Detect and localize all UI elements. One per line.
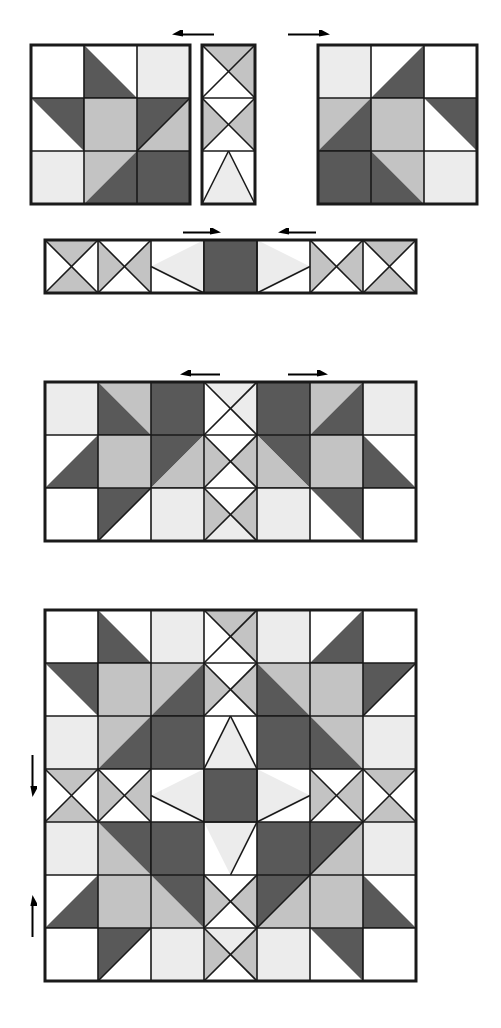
arrow-join-row2-left bbox=[183, 228, 221, 237]
patch-r4-c2 bbox=[151, 822, 204, 875]
patch-r5-c6 bbox=[363, 875, 416, 928]
patch-r2-c4 bbox=[257, 716, 310, 769]
patch-r1-c2 bbox=[424, 98, 477, 151]
patch-r1-c0 bbox=[318, 98, 371, 151]
patch-r1-c3 bbox=[204, 663, 257, 716]
patch-r2-c5 bbox=[310, 716, 363, 769]
patch-r2-c2 bbox=[137, 151, 190, 204]
arrow-join-row2-right bbox=[278, 228, 316, 237]
patch-r1-c5 bbox=[310, 435, 363, 488]
strip-top-row bbox=[42, 379, 419, 544]
patch-r0-c1 bbox=[371, 45, 424, 98]
arrow-join-quilt-down bbox=[28, 755, 37, 797]
patch-r0-c3 bbox=[204, 382, 257, 435]
patch-r1-c4 bbox=[257, 663, 310, 716]
patch-r2-c0 bbox=[31, 151, 84, 204]
patch-r3-c0 bbox=[45, 769, 98, 822]
patch-r5-c4 bbox=[257, 875, 310, 928]
patch-r2-c1 bbox=[84, 151, 137, 204]
patch-r2-c2 bbox=[424, 151, 477, 204]
patch-r1-c1 bbox=[98, 663, 151, 716]
patch-r6-c5 bbox=[310, 928, 363, 981]
patch-r0-c2 bbox=[151, 610, 204, 663]
patch-r4-c5 bbox=[310, 822, 363, 875]
patch-r1-c1 bbox=[98, 435, 151, 488]
patch-r2-c0 bbox=[45, 488, 98, 541]
patch-r0-c4 bbox=[257, 382, 310, 435]
patch-r0-c3 bbox=[204, 610, 257, 663]
patch-r2-c1 bbox=[98, 488, 151, 541]
patch-r6-c3 bbox=[204, 928, 257, 981]
patch-r3-c1 bbox=[98, 769, 151, 822]
patch-r2-c2 bbox=[151, 716, 204, 769]
patch-r2-c1 bbox=[98, 716, 151, 769]
patch-r1-c2 bbox=[137, 98, 190, 151]
quilt-full bbox=[42, 607, 419, 984]
patch-r6-c1 bbox=[98, 928, 151, 981]
patch-r1-c0 bbox=[45, 663, 98, 716]
patch-r0-c6 bbox=[363, 382, 416, 435]
arrow-join-row1-left bbox=[172, 30, 214, 39]
patch-r0-c1 bbox=[98, 240, 151, 293]
patch-r0-c5 bbox=[310, 240, 363, 293]
patch-r5-c3 bbox=[204, 875, 257, 928]
patch-r5-c5 bbox=[310, 875, 363, 928]
patch-r2-c0 bbox=[318, 151, 371, 204]
patch-r0-c0 bbox=[31, 45, 84, 98]
patch-r5-c2 bbox=[151, 875, 204, 928]
patch-r2-c3 bbox=[204, 716, 257, 769]
patch-r2-c6 bbox=[363, 716, 416, 769]
patch-r0-c6 bbox=[363, 610, 416, 663]
patch-r2-c4 bbox=[257, 488, 310, 541]
patch-r6-c0 bbox=[45, 928, 98, 981]
arrow-join-row3-left bbox=[180, 370, 220, 379]
patch-r1-c2 bbox=[151, 435, 204, 488]
patch-r4-c0 bbox=[45, 822, 98, 875]
patch-r4-c6 bbox=[363, 822, 416, 875]
patch-r1-c6 bbox=[363, 435, 416, 488]
patch-r0-c5 bbox=[310, 382, 363, 435]
arrow-join-quilt-up bbox=[28, 895, 37, 937]
patch-r1-c0 bbox=[45, 435, 98, 488]
patch-r4-c1 bbox=[98, 822, 151, 875]
block-right bbox=[315, 42, 480, 207]
patch-r6-c2 bbox=[151, 928, 204, 981]
patch-r0-c0 bbox=[45, 610, 98, 663]
patch-r0-c1 bbox=[84, 45, 137, 98]
patch-r5-c1 bbox=[98, 875, 151, 928]
patch-r1-c0 bbox=[31, 98, 84, 151]
patch-r0-c3 bbox=[204, 240, 257, 293]
patch-r0-c5 bbox=[310, 610, 363, 663]
patch-r3-c2 bbox=[151, 769, 204, 822]
patch-r0-c0 bbox=[45, 240, 98, 293]
patch-r2-c0 bbox=[202, 151, 255, 204]
patch-r1-c4 bbox=[257, 435, 310, 488]
patch-r2-c1 bbox=[371, 151, 424, 204]
patch-r2-c0 bbox=[45, 716, 98, 769]
patch-r0-c0 bbox=[45, 382, 98, 435]
patch-r6-c6 bbox=[363, 928, 416, 981]
patch-r5-c0 bbox=[45, 875, 98, 928]
diagram-canvas bbox=[0, 0, 501, 1028]
patch-r1-c2 bbox=[151, 663, 204, 716]
patch-r2-c5 bbox=[310, 488, 363, 541]
patch-r0-c0 bbox=[202, 45, 255, 98]
patch-r4-c3 bbox=[204, 822, 257, 875]
patch-r4-c4 bbox=[257, 822, 310, 875]
patch-r3-c6 bbox=[363, 769, 416, 822]
patch-r2-c6 bbox=[363, 488, 416, 541]
block-left bbox=[28, 42, 193, 207]
patch-r1-c6 bbox=[363, 663, 416, 716]
patch-r0-c2 bbox=[424, 45, 477, 98]
patch-r3-c3 bbox=[204, 769, 257, 822]
patch-r1-c3 bbox=[204, 435, 257, 488]
patch-r2-c3 bbox=[204, 488, 257, 541]
patch-r0-c4 bbox=[257, 240, 310, 293]
patch-r3-c5 bbox=[310, 769, 363, 822]
patch-r0-c2 bbox=[151, 240, 204, 293]
patch-r6-c4 bbox=[257, 928, 310, 981]
arrow-join-row1-right bbox=[288, 30, 330, 39]
patch-r3-c4 bbox=[257, 769, 310, 822]
patch-r0-c4 bbox=[257, 610, 310, 663]
patch-r1-c5 bbox=[310, 663, 363, 716]
